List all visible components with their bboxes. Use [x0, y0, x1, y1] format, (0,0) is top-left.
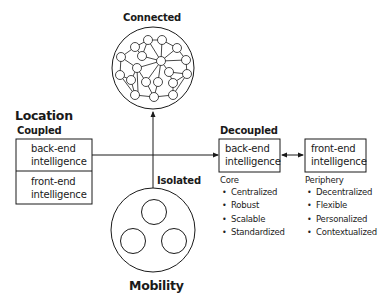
core-item: Robust [222, 199, 285, 212]
decoupled-front-end-text: front-end intelligence [311, 142, 367, 168]
isolated-label: Isolated [157, 175, 201, 186]
periphery-caption: Periphery [305, 175, 344, 185]
periphery-list: Decentralized Flexible Personalized Cont… [307, 186, 377, 239]
core-caption: Core [220, 175, 239, 185]
core-item: Centralized [222, 186, 285, 199]
coupled-back-end-text: back-end intelligence [31, 142, 87, 168]
periphery-item: Flexible [307, 199, 377, 212]
coupled-front-end-line1: front-end [31, 175, 87, 188]
coupled-front-end-line2: intelligence [31, 188, 87, 201]
core-list: Centralized Robust Scalable Standardized [222, 186, 285, 239]
coupled-back-end-line1: back-end [31, 142, 87, 155]
coupled-back-end-line2: intelligence [31, 155, 87, 168]
decoupled-back-end-line1: back-end [225, 142, 281, 155]
isolated-circle [111, 188, 195, 272]
decoupled-back-end-text: back-end intelligence [225, 142, 281, 168]
periphery-item: Decentralized [307, 186, 377, 199]
coupled-label: Coupled [17, 125, 61, 136]
location-axis-title: Location [15, 108, 73, 123]
connected-network-circle [112, 27, 194, 109]
mobility-axis-title: Mobility [129, 278, 184, 293]
connected-label: Connected [123, 12, 181, 23]
network-nodes [116, 36, 192, 102]
decoupled-back-end-line2: intelligence [225, 155, 281, 168]
decoupled-front-end-line2: intelligence [311, 155, 367, 168]
coupled-front-end-text: front-end intelligence [31, 175, 87, 201]
periphery-item: Personalized [307, 213, 377, 226]
core-item: Scalable [222, 213, 285, 226]
decoupled-label: Decoupled [220, 125, 278, 136]
periphery-item: Contextualized [307, 226, 377, 239]
core-item: Standardized [222, 226, 285, 239]
decoupled-front-end-line1: front-end [311, 142, 367, 155]
